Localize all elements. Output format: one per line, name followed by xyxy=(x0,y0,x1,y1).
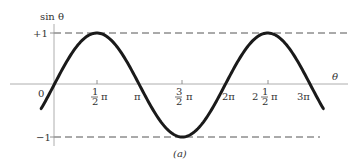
x-label-zero: 0 xyxy=(38,88,44,99)
y-label-plus-one: +1 xyxy=(33,28,48,39)
x-label-three-half-pi: 3 2 π xyxy=(175,86,193,107)
x-label-five-half-pi: 2 1 2 π xyxy=(252,86,278,107)
x-label-pi: π xyxy=(134,91,141,102)
sine-chart: sin θ θ +1 −1 0 1 2 π π 3 2 π 2π 2 1 2 π… xyxy=(0,0,350,167)
svg-text:π: π xyxy=(271,91,278,102)
figure-caption: (a) xyxy=(173,148,187,159)
svg-text:2: 2 xyxy=(92,96,98,107)
x-axis-label: θ xyxy=(332,71,338,82)
svg-text:2: 2 xyxy=(252,91,258,102)
x-label-three-pi: 3π xyxy=(297,91,310,102)
x-label-two-pi: 2π xyxy=(222,91,235,102)
svg-text:π: π xyxy=(101,91,108,102)
svg-text:π: π xyxy=(186,91,193,102)
y-axis-label: sin θ xyxy=(40,11,64,22)
x-label-half-pi: 1 2 π xyxy=(91,86,108,107)
svg-text:2: 2 xyxy=(176,96,182,107)
y-label-minus-one: −1 xyxy=(36,132,51,143)
svg-text:2: 2 xyxy=(262,96,268,107)
sine-curve xyxy=(41,33,323,137)
